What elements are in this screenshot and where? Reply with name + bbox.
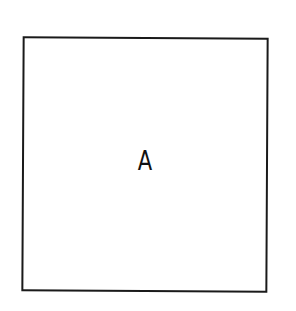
box-label: A <box>136 146 153 176</box>
